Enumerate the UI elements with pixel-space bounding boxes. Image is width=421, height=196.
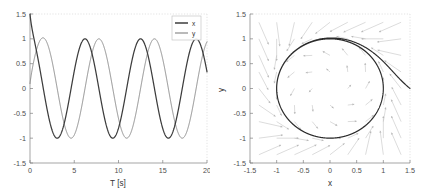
xaxis-tick-label: 15	[159, 166, 167, 175]
xaxis-tick-label: 20	[203, 166, 210, 175]
quiver-arrow-shaft	[348, 138, 359, 155]
quiver-arrow-shaft	[380, 131, 383, 155]
quiver-arrow-shaft	[391, 116, 401, 138]
quiver-arrow-shaft	[371, 48, 383, 56]
yaxis-tick-label: 0.5	[236, 59, 246, 68]
yaxis-tick-label: 1	[22, 34, 26, 43]
phase-portrait-panel: -1.5-1-0.500.511.5-1.5-1-0.500.511.5 x y	[210, 0, 421, 196]
xaxis-tick-label: -1.5	[244, 166, 256, 175]
xaxis-tick-label: 1	[381, 166, 385, 175]
xaxis-tick-label: 5	[72, 166, 76, 175]
quiver-arrow-shaft	[259, 72, 268, 90]
phase-portrait-tick-labels: -1.5-1-0.500.511.5-1.5-1-0.500.511.5	[234, 10, 415, 175]
quiver-arrow-head	[384, 94, 386, 96]
yaxis-tick-label: -1	[240, 134, 246, 143]
quiver-arrow-shaft	[378, 50, 402, 55]
series-y-curve	[30, 38, 207, 138]
yaxis-tick-label: 0.5	[16, 59, 26, 68]
quiver-arrow-head	[322, 139, 324, 141]
quiver-arrow-shaft	[366, 126, 374, 138]
quiver-arrow-shaft	[383, 107, 385, 121]
quiver-arrow-head	[274, 68, 276, 70]
xaxis-tick-label: 0	[28, 166, 32, 175]
quiver-arrow-shaft	[330, 22, 348, 31]
quiver-arrow-shaft	[391, 133, 401, 155]
quiver-arrow-head	[384, 107, 386, 109]
yaxis-tick-label: 0	[242, 84, 246, 93]
quiver-arrow-shaft	[315, 22, 330, 33]
quiver-arrow-shaft	[259, 55, 269, 77]
legend-box	[172, 16, 201, 40]
phase-portrait-yaxis-title: y	[217, 87, 226, 92]
quiver-arrow-shaft	[259, 122, 283, 127]
quiver-arrow-head	[378, 49, 380, 51]
phase-portrait-xaxis-title: x	[328, 179, 332, 188]
xaxis-tick-label: 0.5	[352, 166, 362, 175]
quiver-arrow-head	[351, 36, 353, 38]
quiver-arrow-shaft	[301, 22, 312, 39]
yaxis-tick-label: 0	[22, 84, 26, 93]
quiver-arrow-shaft	[289, 22, 294, 46]
quiver-arrow-head	[274, 81, 276, 83]
yaxis-tick-label: -0.5	[14, 109, 26, 118]
quiver-arrow-shaft	[277, 122, 289, 130]
legend[interactable]: x y	[172, 16, 201, 40]
yaxis-tick-label: -1	[20, 134, 26, 143]
quiver-arrow-shaft	[274, 55, 276, 69]
quiver-arrow-shaft	[259, 105, 276, 116]
xaxis-tick-label: -1	[273, 166, 279, 175]
quiver-arrow-shaft	[287, 39, 295, 51]
quiver-arrow-shaft	[384, 61, 401, 72]
quiver-arrow-shaft	[361, 22, 383, 32]
quiver-arrow-shaft	[259, 39, 269, 61]
time-series-xaxis-title: T [s]	[110, 179, 126, 188]
quiver-arrow-head	[355, 120, 357, 122]
quiver-arrow-shaft	[390, 74, 401, 89]
quiver-arrow-head	[280, 125, 282, 127]
quiver-arrow-shaft	[392, 87, 401, 105]
quiver-arrow-head	[294, 112, 296, 114]
quiver-arrow-shaft	[377, 39, 401, 42]
quiver-arrow-shaft	[366, 131, 371, 155]
yaxis-tick-label: 1	[242, 34, 246, 43]
quiver-arrow-shaft	[277, 145, 299, 155]
yaxis-tick-label: -1.5	[14, 159, 26, 168]
figure-canvas: -1.5-1-0.500.511.505101520 x y T [s]	[0, 0, 421, 196]
phase-portrait-svg: -1.5-1-0.500.511.5-1.5-1-0.500.511.5 x y	[210, 0, 421, 196]
quiver-arrow-shaft	[277, 22, 280, 46]
phase-portrait-axes	[250, 14, 410, 163]
yaxis-tick-label: 1.5	[236, 10, 246, 19]
xaxis-tick-label: -0.5	[297, 166, 309, 175]
time-series-panel: -1.5-1-0.500.511.505101520 x y T [s]	[0, 0, 210, 196]
yaxis-tick-label: 1.5	[16, 10, 26, 19]
xaxis-tick-label: 10	[115, 166, 123, 175]
quiver-arrow-shaft	[259, 89, 270, 104]
quiver-arrow-shaft	[259, 22, 269, 44]
quiver-arrow-head	[303, 55, 305, 57]
quiver-arrow-shaft	[351, 36, 365, 38]
quiver-arrow-head	[307, 139, 309, 141]
yaxis-tick-label: -0.5	[234, 109, 246, 118]
xaxis-tick-label: 0	[328, 166, 332, 175]
quiver-arrow-shaft	[391, 100, 401, 122]
xaxis-tick-label: 1.5	[405, 166, 415, 175]
quiver-arrow-head	[336, 36, 338, 38]
phase-portrait-ticks	[250, 14, 410, 163]
quiver-arrow-shaft	[312, 145, 330, 154]
quiver-arrow-shaft	[259, 135, 283, 138]
quiver-arrow-shaft	[379, 22, 401, 32]
quiver-arrow-shaft	[330, 143, 345, 154]
quiver-arrow-shaft	[294, 138, 308, 140]
phase-portrait-quiver	[250, 14, 410, 163]
quiver-arrow-head	[364, 63, 366, 65]
quiver-arrow-shaft	[259, 145, 281, 155]
time-series-svg: -1.5-1-0.500.511.505101520 x y T [s]	[0, 0, 210, 196]
